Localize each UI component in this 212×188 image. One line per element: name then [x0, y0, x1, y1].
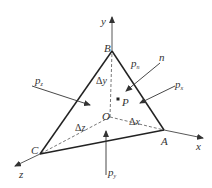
- px-label: px: [174, 78, 184, 91]
- edge-OB: [110, 51, 112, 117]
- dx-label: Δx: [129, 116, 140, 127]
- x-axis: [164, 130, 203, 138]
- z-axis-label: z: [18, 168, 24, 180]
- py-label: py: [107, 166, 117, 179]
- pn-label: pn: [130, 57, 140, 70]
- point-p-marker: [117, 98, 120, 101]
- vertex-b-label: B: [104, 42, 111, 54]
- pz-label: pz: [34, 74, 44, 87]
- normal-n-label: n: [159, 51, 165, 63]
- point-p-label: P: [121, 96, 129, 108]
- edge-BC: [40, 51, 112, 154]
- edge-CA: [40, 130, 164, 154]
- x-axis-label: x: [195, 140, 201, 152]
- vertex-a-label: A: [160, 135, 168, 147]
- px-arrow: [140, 86, 175, 103]
- visible-edges: [40, 51, 164, 154]
- tetrahedron-diagram: y x z B A C O P Δy Δx Δz n pn px pz py: [0, 0, 212, 188]
- axes: [15, 17, 203, 166]
- origin-label: O: [102, 110, 110, 122]
- dy-label: Δy: [96, 75, 107, 86]
- dz-label: Δz: [75, 122, 85, 133]
- y-axis-label: y: [100, 15, 106, 27]
- vertex-c-label: C: [31, 144, 39, 156]
